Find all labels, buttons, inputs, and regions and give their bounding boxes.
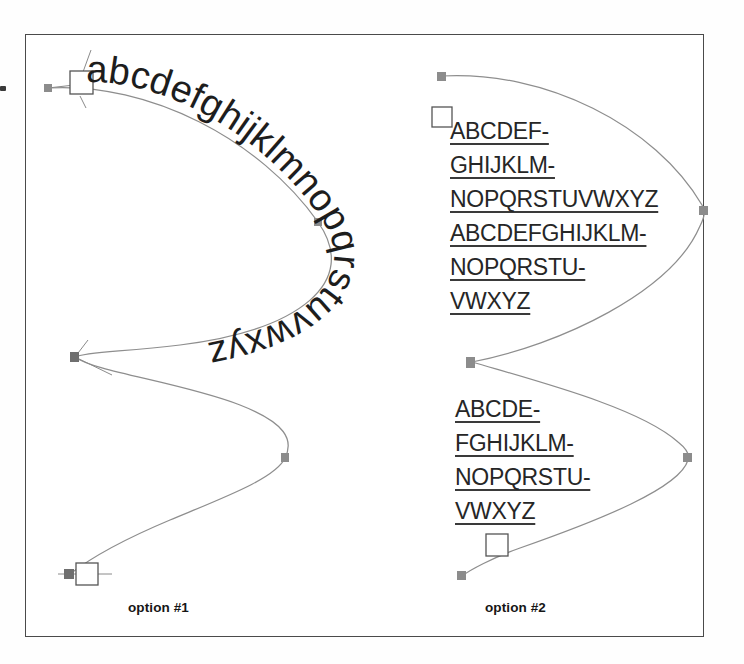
scanned-page: abcdefghijklmnopqrstuvwxyz ABCDEF- GHIJK… (0, 0, 744, 664)
option2-text-block-2: ABCDE- FGHIJKLM- NOPQRSTU- VWXYZ (455, 392, 685, 528)
scan-artifact-speck (0, 86, 6, 91)
option2-text-block-1: ABCDEF- GHIJKLM- NOPQRSTUVWXYZ ABCDEFGHI… (450, 114, 700, 318)
caption-option-2: option #2 (485, 600, 546, 615)
caption-option-1: option #1 (128, 600, 189, 615)
